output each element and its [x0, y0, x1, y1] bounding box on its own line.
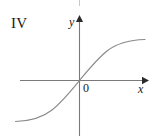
- origin-label: 0: [83, 82, 89, 94]
- figure-panel: IV y x 0: [0, 0, 155, 140]
- y-axis-label: y: [69, 16, 74, 28]
- panel-label: IV: [11, 16, 27, 31]
- y-axis-arrowhead: [76, 15, 83, 22]
- x-axis-label: x: [138, 83, 143, 95]
